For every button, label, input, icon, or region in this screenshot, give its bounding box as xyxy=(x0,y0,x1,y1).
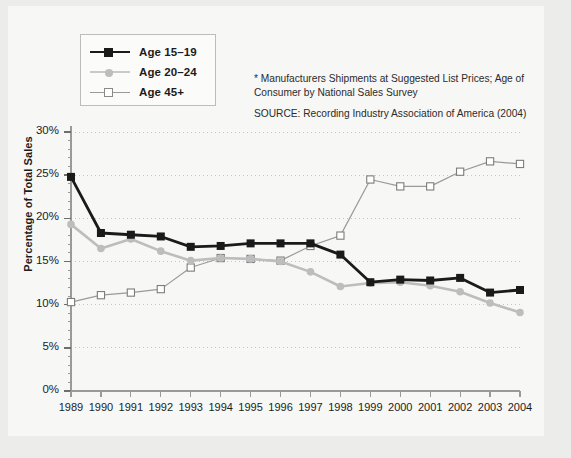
y-axis-tick-label: 30% xyxy=(19,124,59,136)
y-axis-tick-label: 15% xyxy=(19,254,59,266)
y-axis-tick-label: 10% xyxy=(19,297,59,309)
plot-card: Age 15–19 Age 20–24 Age 45+ * Manufactur… xyxy=(8,6,544,436)
y-axis-tick-label: 25% xyxy=(19,167,59,179)
chart-figure: Age 15–19 Age 20–24 Age 45+ * Manufactur… xyxy=(0,0,571,458)
chart-plot-area xyxy=(8,6,544,436)
y-axis-tick-label: 0% xyxy=(19,383,59,395)
x-axis-tick-label: 2004 xyxy=(500,401,540,413)
y-axis-tick-label: 20% xyxy=(19,210,59,222)
y-axis-tick-label: 5% xyxy=(19,340,59,352)
